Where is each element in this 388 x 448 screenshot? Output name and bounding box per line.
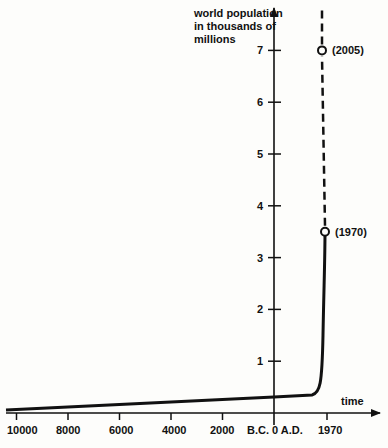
x-tick-label: 4000	[162, 424, 186, 436]
y-tick-label: 5	[257, 148, 263, 160]
x-tick-label: 1970	[318, 424, 342, 436]
annotation-marker	[318, 46, 326, 54]
y-tick-label: 7	[257, 44, 263, 56]
x-tick-label: 2000	[210, 424, 234, 436]
x-tick-label: 10000	[7, 424, 38, 436]
x-axis-label: time	[341, 395, 364, 407]
annotation-label: (2005)	[332, 44, 364, 56]
annotation-marker	[321, 228, 329, 236]
x-ticks: 100008000600040002000B.C. 0 A.D.1970	[7, 413, 342, 436]
x-tick-label: B.C. 0 A.D.	[247, 424, 303, 436]
y-tick-label: 6	[257, 96, 263, 108]
y-tick-label: 2	[257, 303, 263, 315]
y-tick-label: 3	[257, 252, 263, 264]
y-tick-label: 1	[257, 355, 263, 367]
projection-dashed	[322, 6, 325, 226]
x-tick-label: 6000	[109, 424, 133, 436]
population-chart: 1234567 100008000600040002000B.C. 0 A.D.…	[0, 0, 388, 448]
population-curve	[6, 232, 325, 410]
x-tick-label: 8000	[56, 424, 80, 436]
y-axis-label: world population in thousands of million…	[193, 7, 286, 45]
y-ticks: 1234567	[257, 44, 281, 367]
annotation-label: (1970)	[335, 226, 367, 238]
y-tick-label: 4	[257, 200, 264, 212]
